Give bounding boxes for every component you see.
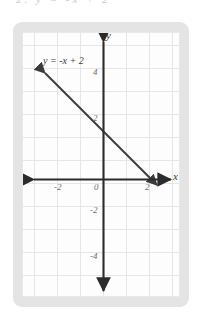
clipped-header-text: 2. y = -x + 2 (0, 0, 202, 9)
graph-card: y = -x + 2 -2 0 2 4 2 -2 -4 y x (13, 22, 189, 307)
axes (23, 33, 179, 296)
coordinate-plane: y = -x + 2 -2 0 2 4 2 -2 -4 y x (22, 32, 180, 297)
clipped-header-label: 2. y = -x + 2 (16, 0, 111, 5)
